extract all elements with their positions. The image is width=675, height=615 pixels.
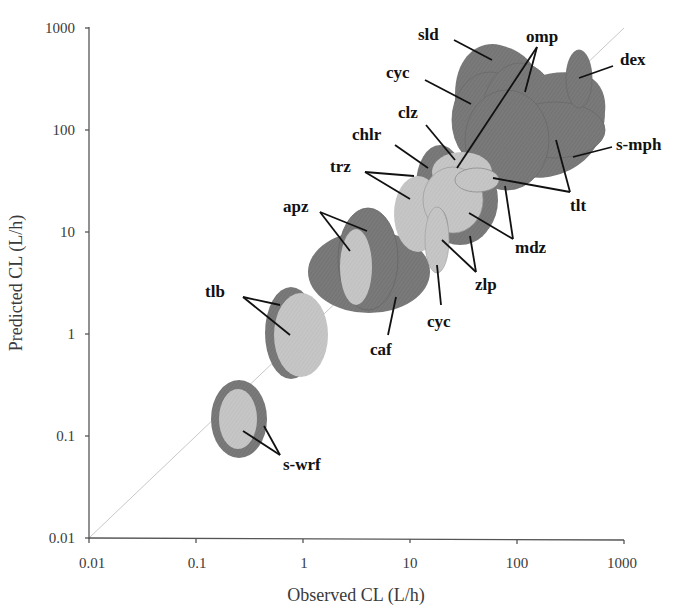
label-cyc-lower: cyc (427, 312, 451, 331)
x-tick-label: 1 (300, 555, 308, 571)
y-axis: 1000 100 10 1 0.1 0.01 Predicted CL (L/h… (6, 20, 89, 546)
label-chlr: chlr (352, 125, 382, 144)
label-apz: apz (283, 197, 309, 216)
x-tick-label: 0.01 (79, 555, 105, 571)
region-tlt-light (455, 168, 499, 192)
label-omp: omp (526, 27, 558, 46)
y-axis-title: Predicted CL (L/h) (6, 215, 27, 351)
region-tlb-light (274, 293, 328, 377)
y-tick-label: 0.1 (56, 428, 75, 444)
label-clz: clz (398, 103, 418, 122)
y-tick-label: 1 (68, 326, 76, 342)
label-trz: trz (330, 157, 351, 176)
clearance-chart: 1000 100 10 1 0.1 0.01 Predicted CL (L/h… (0, 0, 675, 615)
x-axis-title: Observed CL (L/h) (287, 585, 424, 606)
y-tick-label: 10 (60, 224, 75, 240)
label-caf: caf (370, 340, 392, 359)
y-tick-label: 0.01 (49, 530, 75, 546)
region-s-wrf-inner (219, 389, 257, 449)
x-tick-label: 0.1 (188, 555, 207, 571)
label-dex: dex (620, 50, 646, 69)
region-apz-light (340, 229, 372, 305)
label-mdz: mdz (515, 238, 547, 257)
label-sld: sld (418, 25, 439, 44)
x-tick-label: 10 (403, 555, 418, 571)
region-dex (566, 50, 592, 108)
label-cyc-upper: cyc (386, 63, 410, 82)
x-axis: 0.01 0.1 1 10 100 1000 Observed CL (L/h) (79, 538, 637, 606)
label-tlb: tlb (205, 282, 225, 301)
y-tick-label: 100 (53, 122, 76, 138)
label-s-mph: s-mph (616, 135, 662, 154)
region-cyc-lower (425, 207, 449, 273)
label-zlp: zlp (475, 275, 497, 294)
x-tick-label: 100 (506, 555, 529, 571)
y-tick-label: 1000 (45, 20, 75, 36)
x-tick-label: 1000 (607, 555, 637, 571)
label-s-wrf: s-wrf (283, 455, 321, 474)
label-tlt: tlt (570, 196, 586, 215)
